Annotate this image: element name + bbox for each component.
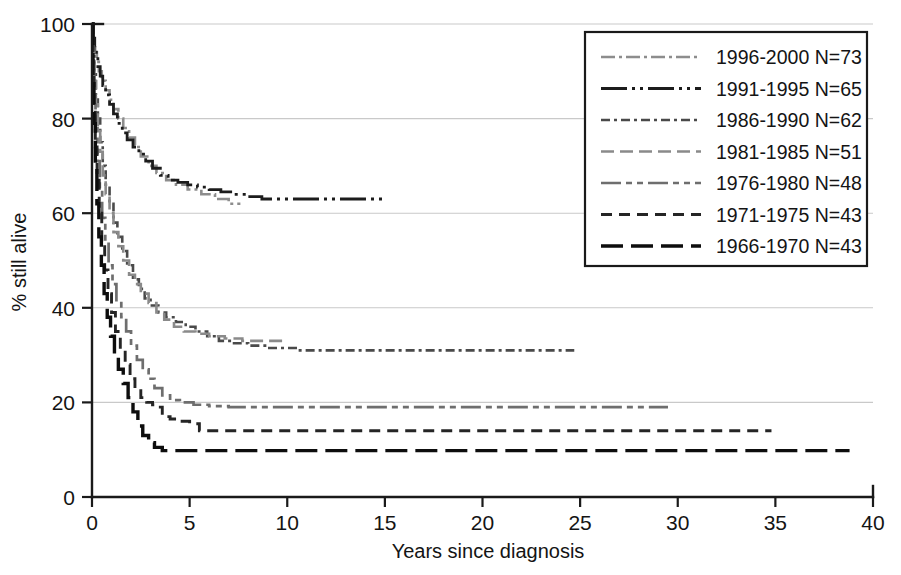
legend-label-1971-1975: 1971-1975 N=43 <box>716 204 862 226</box>
y-axis-title: % still alive <box>8 213 30 312</box>
legend-label-1996-2000: 1996-2000 N=73 <box>716 46 862 68</box>
legend-label-1991-1995: 1991-1995 N=65 <box>716 78 862 100</box>
legend-label-1976-1980: 1976-1980 N=48 <box>716 172 862 194</box>
x-tick-label-20: 20 <box>471 511 494 534</box>
y-tick-label-20: 20 <box>52 391 75 414</box>
y-tick-label-100: 100 <box>40 13 75 36</box>
x-axis-title: Years since diagnosis <box>392 540 585 562</box>
y-tick-label-0: 0 <box>63 486 75 509</box>
x-tick-label-10: 10 <box>276 511 299 534</box>
x-tick-label-35: 35 <box>764 511 787 534</box>
chart-legend: 1996-2000 N=731991-1995 N=651986-1990 N=… <box>585 32 867 266</box>
x-tick-label-25: 25 <box>568 511 591 534</box>
y-tick-label-40: 40 <box>52 297 75 320</box>
legend-label-1986-1990: 1986-1990 N=62 <box>716 109 862 131</box>
x-tick-label-0: 0 <box>86 511 98 534</box>
legend-label-1981-1985: 1981-1985 N=51 <box>716 141 862 163</box>
x-tick-label-5: 5 <box>184 511 196 534</box>
x-tick-label-40: 40 <box>861 511 884 534</box>
survival-chart: 0510152025303540020406080100 Years since… <box>0 0 901 575</box>
legend-label-1966-1970: 1966-1970 N=43 <box>716 235 862 257</box>
kaplan-meier-plot: 0510152025303540020406080100 Years since… <box>0 0 901 575</box>
x-tick-label-30: 30 <box>666 511 689 534</box>
y-tick-label-80: 80 <box>52 108 75 131</box>
x-tick-label-15: 15 <box>373 511 396 534</box>
y-tick-label-60: 60 <box>52 202 75 225</box>
